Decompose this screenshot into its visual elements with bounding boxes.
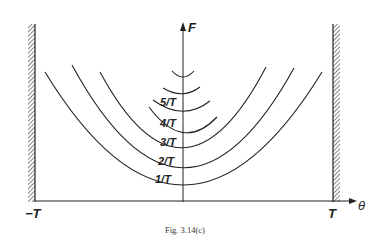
- curve-label-3: 3/T: [160, 136, 177, 148]
- diagram-canvas: 1/T 2/T 3/T 4/T 5/T F θ −T T Fig. 3.14(c…: [0, 0, 385, 239]
- figure-caption: Fig. 3.14(c): [165, 225, 205, 235]
- x-min-label: −T: [25, 206, 42, 221]
- curve-label-4: 4/T: [159, 117, 177, 129]
- y-axis-label: F: [188, 20, 197, 35]
- curve-label-2: 2/T: [157, 155, 175, 167]
- curve-6: [163, 87, 200, 94]
- x-max-label: T: [328, 206, 337, 221]
- y-axis: [180, 22, 186, 202]
- right-wall: [333, 24, 340, 202]
- curve-label-1: 1/T: [155, 173, 172, 185]
- x-axis-label: θ: [358, 198, 365, 213]
- left-wall: [28, 24, 35, 202]
- curve-label-5: 5/T: [160, 96, 177, 108]
- x-axis: [35, 198, 357, 204]
